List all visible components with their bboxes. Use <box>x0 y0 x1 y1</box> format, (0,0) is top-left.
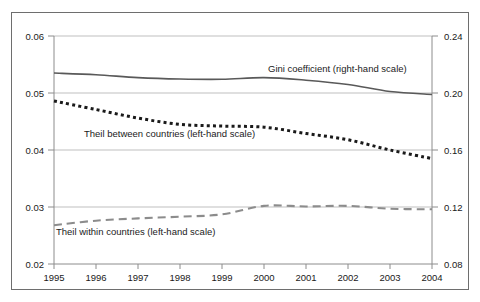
right-tick-label-2: 0.16 <box>444 145 463 156</box>
left-tick-label-4: 0.02 <box>26 259 45 270</box>
x-tick-label-1998: 1998 <box>169 272 190 283</box>
left-tick-label-2: 0.04 <box>26 145 45 156</box>
line-chart: 0.06 0.05 0.04 0.03 0.02 0.24 0.20 0.16 … <box>0 0 480 302</box>
right-tick-label-0: 0.24 <box>444 31 463 42</box>
gridlines <box>54 36 432 207</box>
series-line-0 <box>54 73 432 94</box>
x-tick-label-1999: 1999 <box>211 272 232 283</box>
annotation-theil-within: Theil within countries (left-hand scale) <box>56 226 215 237</box>
x-tick-label-1997: 1997 <box>127 272 148 283</box>
right-tick-label-1: 0.20 <box>444 88 463 99</box>
x-tick-label-2004: 2004 <box>421 272 442 283</box>
annotation-gini: Gini coefficient (right-hand scale) <box>268 63 407 74</box>
left-tick-label-0: 0.06 <box>26 31 45 42</box>
x-axis-ticks <box>54 264 432 269</box>
annotation-theil-between: Theil between countries (left-hand scale… <box>84 128 255 139</box>
series-lines <box>54 73 432 225</box>
x-tick-label-1995: 1995 <box>43 272 64 283</box>
left-tick-label-1: 0.05 <box>26 88 45 99</box>
x-tick-label-1996: 1996 <box>85 272 106 283</box>
right-axis-ticks <box>432 36 438 264</box>
right-tick-label-3: 0.12 <box>444 202 463 213</box>
x-tick-label-2002: 2002 <box>337 272 358 283</box>
left-axis-tick-labels: 0.06 0.05 0.04 0.03 0.02 <box>26 31 45 270</box>
series-line-2 <box>54 205 432 225</box>
left-axis-ticks <box>48 36 54 264</box>
left-tick-label-3: 0.03 <box>26 202 45 213</box>
chart-figure: 0.06 0.05 0.04 0.03 0.02 0.24 0.20 0.16 … <box>0 0 480 302</box>
right-axis-tick-labels: 0.24 0.20 0.16 0.12 0.08 <box>444 31 463 270</box>
x-tick-label-2001: 2001 <box>295 272 316 283</box>
x-axis-tick-labels: 1995199619971998199920002001200220032004 <box>43 272 442 283</box>
x-tick-label-2003: 2003 <box>379 272 400 283</box>
x-tick-label-2000: 2000 <box>253 272 274 283</box>
right-tick-label-4: 0.08 <box>444 259 463 270</box>
